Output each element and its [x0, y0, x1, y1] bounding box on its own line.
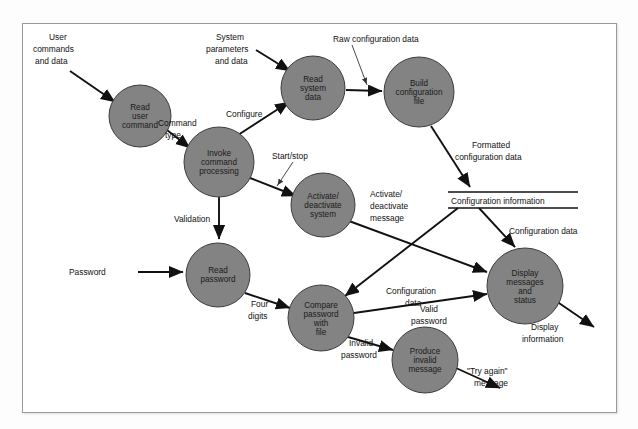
process-read-system-data[interactable]: Read system data — [281, 56, 345, 120]
flow-label-line: password — [411, 316, 447, 326]
process-label-line: configuration — [396, 88, 443, 97]
flow-arrow-invoke-to-activate — [250, 178, 296, 196]
process-label-line: Invoke — [207, 149, 232, 158]
flow-label-activate-deactivate-message: Activate/ deactivate message — [370, 189, 409, 223]
process-label-line: Produce — [410, 347, 441, 356]
diagram-canvas: Configuration information Read user comm… — [0, 0, 638, 429]
process-read-user-command[interactable]: Read user command — [109, 85, 171, 147]
flow-label-line: and data — [35, 56, 68, 66]
flow-label-line: deactivate — [370, 201, 409, 211]
flow-label-line: Activate/ — [370, 189, 403, 199]
process-read-password[interactable]: Read password — [186, 243, 250, 307]
flow-label-line: "Try again" — [467, 366, 508, 376]
flow-label-line: parameters — [206, 44, 248, 54]
flow-label-display-information: Display information — [522, 322, 564, 344]
process-invoke-command-processing[interactable]: Invoke command processing — [184, 127, 254, 197]
process-label-line: command — [201, 158, 237, 167]
process-display-messages-and-status[interactable]: Display messages and status — [487, 248, 563, 324]
flow-label-line: message — [474, 378, 508, 388]
flow-label-line: Display — [531, 322, 559, 332]
process-produce-invalid-message[interactable]: Produce invalid message — [392, 327, 458, 393]
process-label-line: file — [414, 97, 425, 106]
process-label-line: data — [305, 93, 321, 102]
flow-label-invalid-password: Invalid password — [341, 338, 377, 360]
flow-label-formatted-configuration-data: Formatted configuration data — [455, 140, 522, 162]
process-label-line: system — [300, 84, 326, 93]
flow-label-line: commands — [33, 44, 74, 54]
flow-arrow-activate-deactivate-message — [349, 221, 487, 272]
flow-label-line: type — [165, 130, 181, 140]
flow-label-line: System — [216, 32, 244, 42]
process-label-line: status — [514, 296, 536, 305]
flow-label-line: Command — [158, 118, 197, 128]
flow-label-line: Formatted — [472, 140, 511, 150]
flow-arrow-system-parameters-and-data — [256, 50, 290, 71]
data-store-configuration-information: Configuration information — [448, 192, 578, 208]
flow-label-line: Four — [251, 299, 268, 309]
process-compare-password-with-file[interactable]: Compare password with file — [288, 285, 354, 351]
process-label-line: password — [303, 310, 338, 319]
process-label-line: Read — [208, 266, 228, 275]
flow-label-configure: Configure — [226, 109, 263, 119]
process-label-line: system — [310, 210, 336, 219]
process-label-line: file — [316, 328, 327, 337]
flow-label-password: Password — [69, 267, 106, 277]
process-label-line: Compare — [304, 301, 338, 310]
flow-label-validation: Validation — [174, 214, 211, 224]
process-label-line: and — [518, 287, 532, 296]
process-label-line: Read — [130, 103, 150, 112]
process-build-configuration-file[interactable]: Build configuration file — [384, 57, 454, 127]
flow-label-line: and data — [215, 56, 248, 66]
process-label-line: Display — [512, 269, 540, 278]
process-label-line: user — [132, 112, 148, 121]
flow-label-line: information — [522, 334, 564, 344]
flow-label-line: configuration data — [455, 152, 522, 162]
leader-raw-configuration-data — [352, 45, 367, 85]
process-label-line: processing — [199, 167, 239, 176]
process-label-line: Activate/ — [307, 192, 339, 201]
flow-label-line: User — [49, 32, 67, 42]
process-label-line: with — [313, 319, 329, 328]
flow-arrow-user-commands-and-data — [70, 71, 115, 102]
data-flow-diagram: Configuration information Read user comm… — [0, 0, 638, 429]
flow-arrow-display-information — [556, 301, 594, 327]
process-label-line: password — [200, 275, 235, 284]
flow-label-line: Valid — [420, 304, 438, 314]
flow-label-line: message — [370, 213, 404, 223]
process-label-line: command — [122, 121, 158, 130]
flow-label-line: password — [341, 350, 377, 360]
process-label-line: Build — [410, 79, 429, 88]
leader-start-stop — [277, 162, 293, 186]
process-label-line: deactivate — [304, 201, 342, 210]
flow-label-line: Invalid — [349, 338, 374, 348]
flow-label-user-commands-and-data: User commands and data — [33, 32, 74, 66]
process-activate-deactivate-system[interactable]: Activate/ deactivate system — [291, 173, 355, 237]
flow-arrow-read-system-to-build — [346, 90, 382, 91]
flow-label-four-digits: Four digits — [248, 299, 268, 321]
flow-label-start-stop: Start/stop — [272, 151, 308, 161]
process-label-line: invalid — [413, 356, 437, 365]
process-label-line: message — [408, 365, 442, 374]
flow-label-raw-configuration-data: Raw configuration data — [333, 34, 419, 44]
process-label-line: Read — [303, 75, 323, 84]
flow-label-try-again-message: "Try again" message — [467, 366, 508, 388]
data-store-label: Configuration information — [451, 196, 545, 206]
flow-label-line: Configuration — [386, 286, 436, 296]
process-label-line: messages — [506, 278, 543, 287]
flow-label-line: digits — [248, 311, 268, 321]
flow-label-configuration-data-to-display: Configuration data — [509, 226, 578, 236]
flow-label-system-parameters-and-data: System parameters and data — [206, 32, 248, 66]
